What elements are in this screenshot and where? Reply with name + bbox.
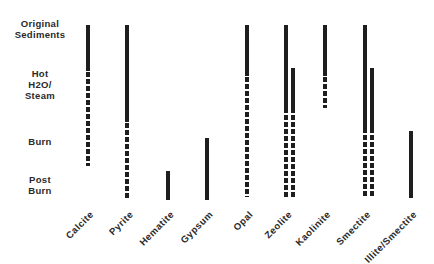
mineral-label: Zeolite [262, 209, 294, 241]
range-bar-dashed [125, 123, 129, 199]
range-bar-dashed [323, 77, 327, 108]
stage-label: HotH2O/Steam [0, 68, 80, 101]
mineral-label: Hematite [137, 209, 176, 248]
mineral-label: Smectite [334, 209, 373, 248]
range-bar-solid [291, 68, 295, 113]
range-bar-dashed [291, 115, 295, 197]
mineral-label: Pyrite [107, 209, 136, 238]
range-bar-dashed [86, 72, 90, 166]
range-bar-dashed [370, 135, 374, 196]
range-bar-solid [363, 25, 367, 133]
range-bar-solid [205, 138, 209, 200]
mineral-label: Kaolinite [293, 209, 332, 248]
range-bar-solid [86, 25, 90, 71]
range-bar-solid [284, 25, 288, 113]
mineral-label: Opal [231, 209, 255, 233]
range-bar-dashed [363, 135, 367, 196]
range-bar-dashed [284, 115, 288, 197]
stage-label: Burn [0, 136, 80, 147]
mineral-label: Calcite [63, 209, 95, 241]
range-bar-solid [166, 171, 170, 200]
range-bar-dashed [245, 77, 249, 197]
range-bar-solid [125, 25, 129, 122]
mineral-label: Gypsum [178, 209, 215, 246]
range-bar-solid [409, 131, 413, 198]
stage-label: PostBurn [0, 174, 80, 196]
mineral-stage-diagram: OriginalSedimentsHotH2O/SteamBurnPostBur… [0, 0, 434, 264]
range-bar-solid [245, 25, 249, 76]
range-bar-solid [370, 68, 374, 133]
range-bar-solid [323, 25, 327, 76]
stage-label: OriginalSediments [0, 18, 80, 40]
